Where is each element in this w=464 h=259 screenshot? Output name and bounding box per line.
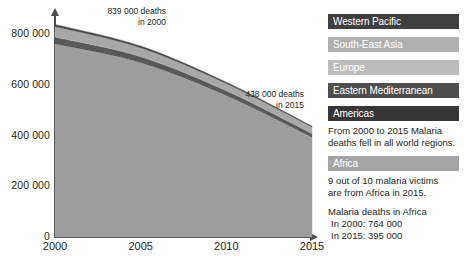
legend-item-western-pacific[interactable]: Western Pacific [328, 14, 459, 29]
legend-label: Americas [333, 108, 374, 119]
chart-pane: 0200 000400 000600 000800 000 2000200520… [0, 0, 322, 259]
y-tick-label: 800 000 [11, 27, 50, 39]
x-tick-label: 2015 [300, 240, 324, 252]
legend-label: Europe [333, 62, 365, 73]
africa-deaths-2000: In 2000: 764 000 [328, 218, 464, 230]
africa-deaths-2015: In 2015: 395 000 [328, 230, 464, 242]
legend-item-europe[interactable]: Europe [328, 60, 459, 75]
africa-deaths-title: Malaria deaths in Africa [328, 206, 464, 218]
x-tick-label: 2000 [43, 240, 67, 252]
legend-label: Eastern Mediterranean [333, 85, 433, 96]
chart-figure: 0200 000400 000600 000800 000 2000200520… [0, 0, 464, 259]
legend-item-africa[interactable]: Africa [328, 156, 459, 171]
x-tick-label: 2010 [214, 240, 238, 252]
annotation-2015: 438 000 deaths in 2015 [196, 89, 304, 110]
y-tick-label: 600 000 [11, 78, 50, 90]
y-tick-label: 400 000 [11, 129, 50, 141]
legend-label: Africa [333, 158, 358, 169]
legend-item-eastern-mediterranean[interactable]: Eastern Mediterranean [328, 83, 459, 98]
y-tick-label: 200 000 [11, 179, 50, 191]
legend-label: South-East Asia [333, 39, 403, 50]
regions-note: From 2000 to 2015 Malaria deaths fell in… [328, 125, 464, 149]
legend-label: Western Pacific [333, 16, 401, 27]
legend-pane: Western Pacific South-East Asia Europe E… [328, 0, 464, 259]
africa-note: 9 out of 10 malaria victims are from Afr… [328, 175, 464, 199]
legend-item-americas[interactable]: Americas [328, 106, 459, 121]
x-tick-label: 2005 [128, 240, 152, 252]
annotation-2000: 839 000 deaths in 2000 [62, 6, 166, 27]
legend-item-south-east-asia[interactable]: South-East Asia [328, 37, 459, 52]
